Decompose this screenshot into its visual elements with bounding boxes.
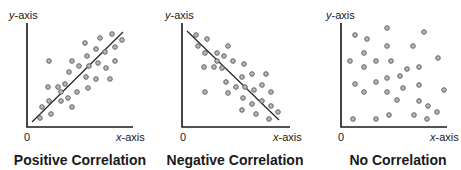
data-point — [365, 37, 370, 42]
data-point — [389, 59, 394, 64]
data-point — [241, 96, 246, 101]
data-point — [110, 32, 115, 37]
data-point — [374, 117, 379, 122]
data-point — [94, 77, 99, 82]
data-point — [84, 75, 89, 80]
chart-title: No Correlation — [349, 152, 446, 168]
data-point — [85, 54, 90, 59]
chart-title: Positive Correlation — [14, 152, 146, 168]
data-point — [113, 59, 118, 64]
data-point — [353, 82, 358, 87]
data-point — [59, 90, 64, 95]
panel-negative-correlation: y-axis 0 x-axis Negative Correlation — [164, 9, 303, 168]
data-point — [387, 113, 392, 118]
data-point — [196, 44, 201, 49]
data-point — [104, 66, 109, 71]
data-point — [234, 85, 239, 90]
data-point — [94, 47, 99, 52]
data-point — [435, 110, 440, 115]
data-point — [212, 65, 217, 70]
panel-positive-correlation: y-axis 0 x-axis Positive Correlation — [8, 9, 146, 168]
data-point — [385, 44, 390, 49]
data-point — [267, 117, 272, 122]
data-point — [224, 80, 229, 85]
data-point — [83, 41, 88, 46]
data-point — [385, 90, 390, 95]
data-point — [215, 51, 220, 56]
data-point — [66, 96, 71, 101]
data-point — [250, 102, 255, 107]
data-point — [260, 83, 265, 88]
data-point — [67, 70, 72, 75]
data-point — [264, 72, 269, 77]
data-point — [70, 59, 75, 64]
data-point — [202, 65, 207, 70]
data-point — [374, 80, 379, 85]
x-axis-label: x-axis — [429, 131, 459, 143]
y-axis-label: y-axis — [164, 9, 194, 21]
data-point — [77, 64, 82, 69]
axes — [341, 23, 447, 127]
data-point — [362, 90, 367, 95]
data-point — [405, 67, 410, 72]
data-point — [395, 98, 400, 103]
data-point — [103, 50, 108, 55]
data-point — [417, 65, 422, 70]
chart-title: Negative Correlation — [167, 152, 304, 168]
data-point — [47, 59, 52, 64]
data-point — [442, 88, 447, 93]
data-point — [240, 75, 245, 80]
data-point — [113, 45, 118, 50]
data-point — [86, 86, 91, 91]
data-point — [205, 37, 210, 42]
data-point — [98, 36, 103, 41]
x-axis-label: x-axis — [115, 131, 145, 143]
origin-label: 0 — [338, 131, 344, 143]
data-points — [348, 26, 447, 122]
data-point — [426, 104, 431, 109]
data-point — [242, 62, 247, 67]
data-point — [96, 61, 101, 66]
data-point — [417, 83, 422, 88]
data-point — [70, 105, 75, 110]
panel-no-correlation: y-axis 0 x-axis No Correlation — [325, 9, 459, 168]
data-point — [260, 99, 265, 104]
data-point — [38, 116, 43, 121]
data-point — [411, 44, 416, 49]
y-axis-label: y-axis — [325, 9, 355, 21]
data-point — [120, 38, 125, 43]
data-point — [374, 59, 379, 64]
data-point — [194, 33, 199, 38]
data-point — [203, 90, 208, 95]
data-point — [59, 99, 64, 104]
origin-label: 0 — [24, 131, 30, 143]
data-point — [87, 64, 92, 69]
data-point — [412, 113, 417, 118]
data-points — [38, 32, 125, 121]
data-point — [220, 66, 225, 71]
data-point — [385, 76, 390, 81]
data-point — [215, 59, 220, 64]
data-point — [40, 105, 45, 110]
origin-label: 0 — [180, 131, 186, 143]
data-point — [47, 99, 52, 104]
data-point — [269, 90, 274, 95]
data-point — [49, 112, 54, 117]
data-point — [203, 51, 208, 56]
data-point — [425, 117, 430, 122]
data-point — [351, 117, 356, 122]
data-point — [385, 26, 390, 31]
data-point — [436, 56, 441, 61]
x-axis-label: x-axis — [272, 131, 302, 143]
data-point — [222, 54, 227, 59]
axes — [182, 23, 290, 127]
scatter-plots-figure: y-axis 0 x-axis Positive Correlation y-a… — [0, 0, 461, 170]
data-point — [243, 85, 248, 90]
data-point — [250, 72, 255, 77]
data-point — [353, 33, 358, 38]
data-point — [226, 91, 231, 96]
data-point — [108, 77, 113, 82]
data-point — [254, 112, 259, 117]
data-point — [348, 59, 353, 64]
data-point — [46, 85, 51, 90]
